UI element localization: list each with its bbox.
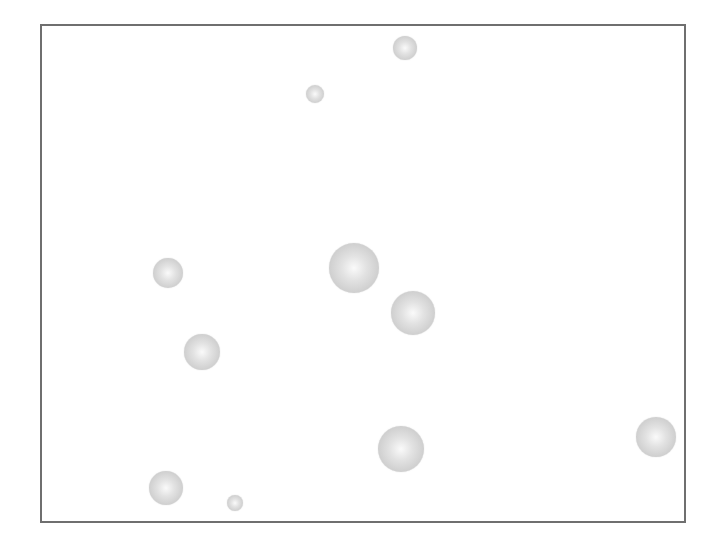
sphere bbox=[329, 243, 379, 293]
sphere bbox=[184, 334, 220, 370]
sphere bbox=[393, 36, 417, 60]
sphere bbox=[391, 291, 435, 335]
sphere bbox=[149, 471, 183, 505]
sphere bbox=[378, 426, 424, 472]
sphere bbox=[306, 85, 324, 103]
sphere bbox=[153, 258, 183, 288]
sphere bbox=[636, 417, 676, 457]
sphere bbox=[227, 495, 243, 511]
